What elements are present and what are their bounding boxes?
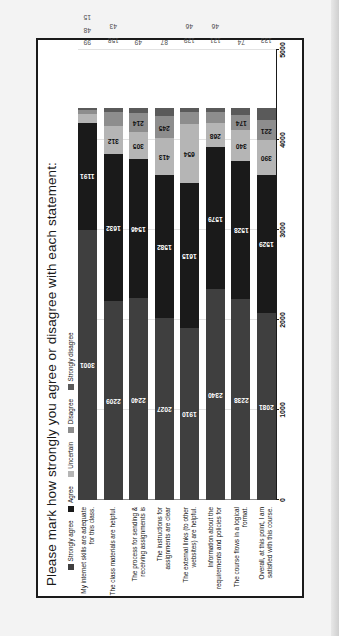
chart-legend: Strongly agreeAgreeUncertainDisagreeStro… [67,333,74,570]
bar-segment[interactable] [231,108,250,115]
bar-segment[interactable]: 2027 [154,318,173,500]
bar-row[interactable]: 30011191994815 [78,50,97,500]
segment-value-label: 48 [83,26,90,33]
value-axis: 010002000300040005000 [276,50,302,500]
bar-segment[interactable] [180,108,199,112]
bar-segment[interactable]: 2238 [231,299,250,500]
rotated-chart-wrapper: Please mark how strongly you agree or di… [36,38,304,598]
bar-segment[interactable]: 268 [205,123,224,147]
outside-value-labels: 12146 [205,22,224,45]
legend-label: Strongly disagree [67,333,74,382]
outside-value-labels: 74 [231,38,250,45]
bar-row[interactable]: 2340157926812146 [205,50,224,500]
segment-value-label: 43 [109,22,116,29]
bar-segment[interactable]: 245 [154,116,173,138]
bar-segment[interactable]: 1546 [129,159,148,298]
segment-value-label: 158 [107,36,118,43]
bar-row[interactable]: 2238152834017474 [231,50,250,500]
bar-segment[interactable] [205,108,224,112]
bar-segment[interactable]: 1910 [180,328,199,500]
bar-segment[interactable] [78,108,97,109]
bar-segment[interactable] [205,112,224,123]
bar-segment[interactable] [78,114,97,123]
legend-item[interactable]: Disagree [67,399,74,433]
axis-line [276,50,277,500]
bar-segment[interactable]: 1579 [205,147,224,289]
legend-label: Uncertain [67,442,74,469]
bar-segment[interactable] [103,112,122,126]
outside-value-labels: 133 [256,34,275,45]
bar-segment[interactable]: 1529 [256,175,275,313]
bar-segment[interactable] [78,110,97,114]
segment-value-label: 1579 [207,215,222,222]
bar-segment[interactable]: 1191 [78,123,97,230]
legend-swatch-icon [67,564,73,570]
segment-value-label: 221 [260,127,271,134]
bar-segment[interactable]: 305 [129,132,148,159]
bar-row[interactable]: 1910161565412946 [180,50,199,500]
category-label: The course flows in a logical format. [231,502,250,596]
bar-segment[interactable]: 654 [180,124,199,183]
bar-segment[interactable] [154,108,173,116]
bar-segment[interactable]: 1582 [154,175,173,317]
segment-value-label: 1632 [105,224,120,231]
bar-segment[interactable] [256,108,275,120]
bar-segment[interactable]: 2209 [103,301,122,500]
bar-segment[interactable]: 2081 [256,313,275,500]
bar-segment[interactable]: 390 [256,140,275,175]
scan-edge [331,0,339,636]
category-label: The class materials are helpful. [103,502,122,596]
category-label: The external links (to other websites) a… [180,502,199,596]
chart-title: Please mark how strongly you agree or di… [44,162,59,586]
outside-value-labels: 49 [129,38,148,45]
segment-value-label: 49 [134,38,141,45]
bar-row[interactable]: 2240154630521449 [129,50,148,500]
legend-swatch-icon [67,427,73,433]
segment-value-label: 15 [83,13,90,20]
outside-value-labels: 87 [154,38,173,45]
segment-value-label: 340 [235,142,246,149]
legend-item[interactable]: Agree [67,486,74,511]
category-label: The process for sending & receiving assi… [129,502,148,596]
segment-value-label: 1615 [182,252,197,259]
bar-segment[interactable]: 221 [256,120,275,140]
legend-item[interactable]: Uncertain [67,442,74,477]
category-label: The instructions for assignments are cle… [154,502,173,596]
segment-value-label: 1582 [156,243,171,250]
bar-row[interactable]: 2209163231215843 [103,50,122,500]
axis-tick-label: 0 [279,498,286,502]
outside-value-labels: 994815 [78,13,97,45]
bar-segment[interactable]: 413 [154,138,173,175]
bar-segment[interactable]: 214 [129,113,148,132]
legend-item[interactable]: Strongly disagree [67,333,74,391]
segment-value-label: 305 [133,142,144,149]
segment-value-label: 46 [211,22,218,29]
bar-segment[interactable]: 340 [231,130,250,161]
bar-segment[interactable]: 1528 [231,161,250,299]
bar-segment[interactable]: 2340 [205,289,224,500]
outside-value-labels: 12946 [180,22,199,45]
bar-segment[interactable]: 174 [231,115,250,131]
plot-area: 3001119199481522091632312158432240154630… [78,50,276,500]
legend-item[interactable]: Strongly agree [67,521,74,570]
bar-row[interactable]: 20811529390221133 [256,50,275,500]
bar-segment[interactable] [103,108,122,112]
segment-value-label: 99 [83,38,90,45]
bar-segment[interactable]: 1615 [180,183,199,328]
segment-value-label: 245 [158,124,169,131]
legend-label: Strongly agree [67,521,74,562]
bar-row[interactable]: 2027158241324587 [154,50,173,500]
bar-segment[interactable]: 3001 [78,230,97,500]
bar-segment[interactable]: 312 [103,126,122,154]
bar-segment[interactable] [129,108,148,112]
category-label: My internet skills are adequate for this… [78,502,97,596]
segment-value-label: 2240 [131,396,146,403]
bar-segment[interactable]: 2240 [129,298,148,500]
segment-value-label: 390 [260,154,271,161]
bar-segment[interactable] [180,112,199,124]
segment-value-label: 133 [260,36,271,43]
legend-swatch-icon [67,471,73,477]
outside-value-labels: 15843 [103,22,122,45]
bar-segment[interactable]: 1632 [103,154,122,301]
bar-group: 3001119199481522091632312158432240154630… [78,50,276,500]
